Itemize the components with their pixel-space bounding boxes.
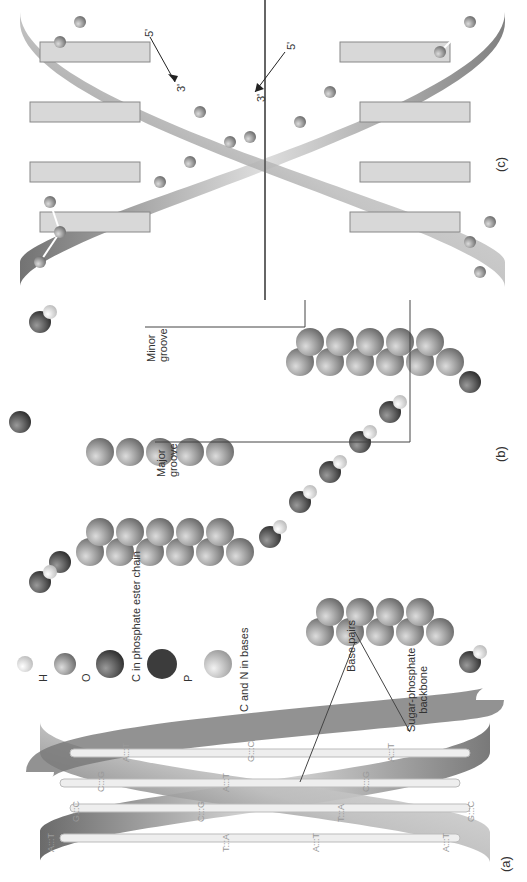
dna-figure: (a) (b) (c) H O C in phosphate ester cha…: [0, 0, 527, 882]
panel-c-ball-and-stick-model: [20, 0, 505, 300]
bp-label: A:::T: [385, 743, 397, 762]
bp-label: T:::A: [220, 834, 232, 852]
bp-label: A:::T: [220, 773, 232, 792]
dna-illustration: [0, 0, 527, 882]
legend-h-label: H: [37, 674, 49, 682]
bp-label: A:::T: [45, 833, 57, 852]
panel-c-label: (c): [495, 157, 507, 172]
bp-label: C:::G: [360, 771, 372, 792]
legend-p-ball: [147, 649, 177, 679]
legend-p-label: P: [182, 675, 194, 682]
bp-label: A:::T: [440, 833, 452, 852]
legend-h-ball: [17, 656, 33, 672]
bp-label: T:::A: [335, 804, 347, 822]
strand1-3prime: 3': [175, 84, 187, 92]
strand2-5prime: 5': [285, 42, 297, 50]
bp-label: C:::G: [195, 801, 207, 822]
callout-minor-groove: Minor groove: [145, 328, 169, 362]
callout-base-pairs: Base pairs: [345, 620, 357, 672]
strand1-5prime: 5': [143, 29, 155, 37]
legend-c-ester-ball: [96, 650, 124, 678]
bp-label: A:::T: [120, 743, 132, 762]
legend-o-label: O: [80, 673, 92, 682]
callout-backbone: Sugar-phosphate backbone: [405, 648, 429, 732]
legend-cn-label: C and N in bases: [238, 628, 250, 712]
legend-cn-ball: [204, 650, 232, 678]
callout-major-groove: Major groove: [155, 443, 179, 477]
bp-label: G:::C: [245, 741, 257, 762]
legend-o-ball: [54, 653, 76, 675]
panel-b-label: (b): [495, 446, 507, 462]
bp-label: A:::T: [310, 833, 322, 852]
bp-label: G:::C: [70, 801, 82, 822]
bp-label: C:::G: [95, 771, 107, 792]
strand2-3prime: 3': [255, 94, 267, 102]
panel-b-space-filling-model: [9, 305, 487, 673]
legend-c-ester-label: C in phosphate ester chain: [130, 551, 142, 682]
bp-label: G:::C: [465, 801, 477, 822]
panel-a-label: (a): [500, 856, 512, 872]
